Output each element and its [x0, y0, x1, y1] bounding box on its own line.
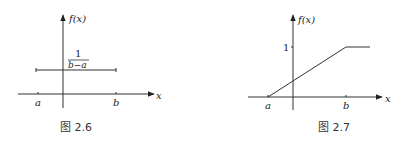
tick-a-label: a — [35, 97, 41, 108]
tick-b-label: b — [343, 100, 349, 111]
figure-2-6: f(x) x a b 1 b−a 图 2.6 — [18, 13, 162, 134]
cdf-line — [268, 47, 370, 97]
caption-2-6: 图 2.6 — [60, 121, 92, 134]
y-axis-label: f(x) — [297, 14, 315, 25]
x-axis-label: x — [156, 90, 162, 101]
tick-b-label: b — [113, 97, 119, 108]
x-axis-label: x — [385, 93, 391, 104]
fraction-denominator: b−a — [68, 60, 87, 70]
level-one-label: 1 — [283, 42, 289, 53]
fraction-numerator: 1 — [75, 48, 81, 59]
figures-canvas: f(x) x a b 1 b−a 图 2.6 f(x) x a b 1 图 2.… — [0, 0, 406, 143]
tick-a-label: a — [265, 100, 271, 111]
y-axis-label: f(x) — [68, 13, 86, 24]
caption-2-7: 图 2.7 — [318, 121, 350, 134]
figure-2-7: f(x) x a b 1 图 2.7 — [248, 14, 391, 134]
